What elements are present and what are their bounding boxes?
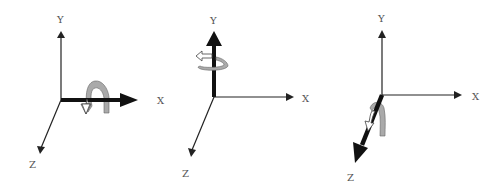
z-axis-label: Z xyxy=(29,159,36,170)
y-axis-arrowhead-icon xyxy=(206,31,222,46)
z-axis xyxy=(192,97,214,150)
panel-rotation-about-z: Y X Z xyxy=(347,13,480,183)
panel-rotation-about-x: Y Z X xyxy=(29,14,165,170)
panel-rotation-about-y: Y X Z xyxy=(182,15,310,179)
x-axis-arrowhead-icon xyxy=(286,93,294,101)
z-axis-arrowhead-icon xyxy=(37,146,45,154)
z-axis xyxy=(41,100,61,148)
y-axis-label: Y xyxy=(377,13,385,24)
z-axis-arrowhead-icon xyxy=(188,148,196,157)
rotation-arrow-icon xyxy=(86,81,109,113)
x-axis-arrowhead-icon xyxy=(454,91,462,99)
rotation-arrowhead-icon xyxy=(196,51,212,61)
y-axis-arrowhead-icon xyxy=(378,30,386,38)
z-axis-label: Z xyxy=(347,172,354,183)
z-axis-label: Z xyxy=(182,168,189,179)
y-axis-label: Y xyxy=(56,14,64,25)
y-axis-label: Y xyxy=(209,15,217,26)
x-axis-label: X xyxy=(472,91,480,102)
rotation-diagram: Y Z X Y X Z Y xyxy=(0,0,504,195)
x-axis-label: X xyxy=(302,93,310,104)
y-axis-arrowhead-icon xyxy=(57,31,65,38)
x-axis-label: X xyxy=(157,95,165,106)
x-axis-arrowhead-icon xyxy=(120,93,138,107)
z-axis-arrowhead-icon xyxy=(353,142,368,163)
